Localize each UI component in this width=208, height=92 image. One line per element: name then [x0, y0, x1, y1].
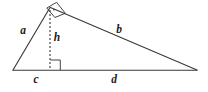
geometry-figure: a b h c d: [0, 0, 208, 92]
foot-right-angle-icon: [50, 60, 60, 70]
label-base-segment-d: d: [111, 73, 117, 85]
label-leg-a: a: [20, 24, 26, 36]
label-altitude-h: h: [54, 31, 60, 43]
label-base-segment-c: c: [33, 73, 38, 85]
leg-a-line: [13, 8, 50, 71]
hypotenuse-b-line: [51, 8, 198, 71]
apex-right-angle-dot-icon: [53, 9, 55, 11]
label-hypotenuse-b: b: [116, 23, 122, 35]
triangle-diagram-canvas: a b h c d: [0, 0, 208, 92]
